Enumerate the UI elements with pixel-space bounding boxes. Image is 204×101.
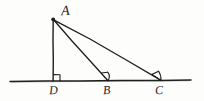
vertex-label-D: D	[49, 84, 58, 96]
angle-arc-C-icon	[152, 71, 161, 80]
baseline-group	[10, 80, 191, 82]
segment-AB	[54, 20, 108, 81]
segment-AC-stroke	[54, 20, 161, 80]
vertex-dot-A	[51, 17, 55, 21]
segment-AC	[54, 20, 161, 80]
vertex-label-C: C	[155, 84, 164, 96]
vertex-label-A: A	[61, 4, 70, 18]
geometry-diagram: A D B C	[0, 0, 204, 101]
angle-arc-B-icon	[102, 72, 110, 80]
vertex-label-B: B	[103, 84, 111, 96]
segment-AB-stroke	[54, 20, 108, 81]
right-angle-square-D-icon	[54, 75, 60, 81]
